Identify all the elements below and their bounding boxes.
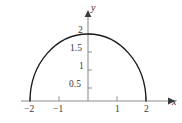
y-tick-label-2: 2 (78, 26, 83, 36)
y-tick-label-1-5: 1.5 (70, 44, 82, 54)
y-tick-label-1: 1 (79, 62, 84, 72)
y-axis-label: y (91, 3, 95, 13)
figure-container: −2 −1 1 2 2 1.5 1 0.5 x y (0, 0, 182, 123)
x-tick-label-neg1: −1 (53, 105, 63, 115)
x-tick-label-1: 1 (115, 105, 120, 115)
x-tick-label-neg2: −2 (24, 105, 34, 115)
x-axis-label: x (172, 97, 176, 107)
x-tick-label-2: 2 (144, 105, 149, 115)
y-tick-label-0-5: 0.5 (69, 80, 81, 90)
